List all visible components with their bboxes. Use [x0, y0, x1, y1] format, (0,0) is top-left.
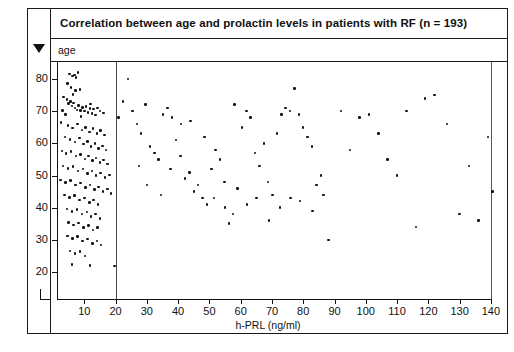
triangle-down-icon	[33, 44, 45, 53]
page-title: Correlation between age and prolactin le…	[50, 17, 467, 29]
y-axis-name-band: age	[50, 39, 508, 62]
y-axis-name-label: age	[50, 44, 76, 56]
scatter-figure: Correlation between age and prolactin le…	[0, 0, 514, 352]
title-band: Correlation between age and prolactin le…	[50, 8, 508, 39]
